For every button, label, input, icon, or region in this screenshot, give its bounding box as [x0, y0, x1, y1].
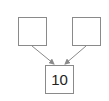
arrow-right [65, 46, 86, 64]
arrow-left [32, 46, 54, 64]
top-right-box[interactable] [72, 17, 101, 46]
bottom-total-box: 10 [45, 65, 74, 94]
top-left-box[interactable] [18, 17, 47, 46]
